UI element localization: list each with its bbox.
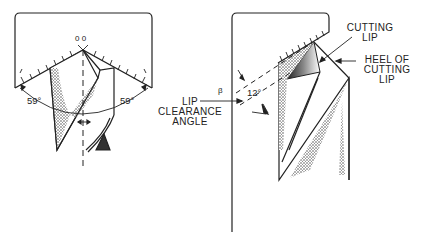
cutting-lip-label: CUTTING LIP [340,23,400,43]
left-angle-label: 59° [27,95,41,106]
lip-clearance-angle-label: LIP CLEARANCE ANGLE [155,97,225,127]
small-mark: β [218,86,223,95]
label-line: LIP [355,75,419,85]
right-angle-label: 59° [120,95,134,106]
label-line: ANGLE [155,117,225,127]
clearance-angle-value: 12° [247,87,261,98]
label-line: LIP [340,33,400,43]
heel-of-cutting-lip-label: HEEL OF CUTTING LIP [355,55,419,85]
gauge-zero-mark: 0 0 [75,34,86,43]
